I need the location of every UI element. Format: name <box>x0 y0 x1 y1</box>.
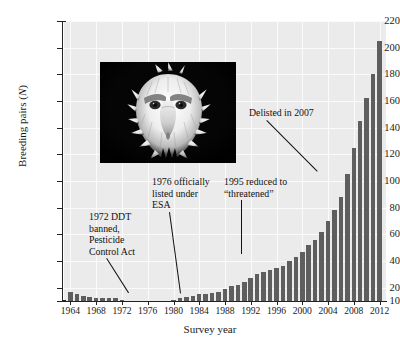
bar <box>300 252 305 301</box>
y-axis-top-cap <box>62 21 66 22</box>
annotation-delisted: Delisted in 2007 <box>249 107 314 119</box>
bar <box>248 278 253 301</box>
annotation-ddt: 1972 DDTbanned,PesticideControl Act <box>89 211 135 257</box>
bar <box>261 272 266 301</box>
bar <box>294 257 299 301</box>
bar <box>255 274 260 301</box>
bar <box>210 293 215 301</box>
y-axis-tick <box>57 234 62 235</box>
annotation-threatened: 1995 reduced to“threatened” <box>224 176 287 199</box>
bar <box>371 74 376 301</box>
y-axis-tick-label: 40 <box>348 256 400 267</box>
y-axis-tick-label: 140 <box>348 123 400 134</box>
bar <box>313 240 318 301</box>
bar <box>319 232 324 301</box>
gridline-vertical <box>96 21 97 301</box>
x-axis-title: Survey year <box>130 323 290 335</box>
y-axis-tick-label: 160 <box>348 96 400 107</box>
annotation-esa-line: listed under <box>152 188 210 200</box>
plot-area: 1972 DDTbanned,PesticideControl Act1976 … <box>64 21 386 301</box>
bar <box>203 294 208 301</box>
annotation-esa-line: 1976 officially <box>152 176 210 188</box>
annotation-ddt-line: banned, <box>89 223 135 235</box>
bar <box>332 210 337 301</box>
bar <box>223 289 228 301</box>
gridline-vertical <box>70 21 71 301</box>
y-axis-tick <box>57 74 62 75</box>
bar <box>306 245 311 301</box>
y-axis-tick <box>57 21 62 22</box>
y-axis-tick-label: 120 <box>348 149 400 160</box>
y-axis-tick-label: 80 <box>348 203 400 214</box>
y-axis-spine <box>62 21 63 301</box>
chart-figure: 1972 DDTbanned,PesticideControl Act1976 … <box>0 0 400 346</box>
annotation-ddt-line: 1972 DDT <box>89 211 135 223</box>
annotation-threatened-leader-line <box>241 200 242 254</box>
annotation-esa: 1976 officiallylisted underESA <box>152 176 210 211</box>
bald-eagle-photograph <box>100 62 236 163</box>
bar <box>339 197 344 301</box>
y-axis-title-text: Breeding pairs <box>16 103 28 167</box>
bar <box>287 261 292 301</box>
bar <box>352 148 357 301</box>
bar <box>326 221 331 301</box>
y-axis-tick-label: 20 <box>348 283 400 294</box>
y-axis-tick <box>57 101 62 102</box>
gridline-vertical <box>277 21 278 301</box>
y-axis-tick-label: 220 <box>348 16 400 27</box>
bar <box>242 282 247 301</box>
annotation-threatened-line: “threatened” <box>224 188 287 200</box>
bar <box>229 286 234 301</box>
annotation-threatened-line: 1995 reduced to <box>224 176 287 188</box>
annotation-ddt-line: Control Act <box>89 246 135 258</box>
y-axis-tick <box>57 154 62 155</box>
gridline-vertical <box>251 21 252 301</box>
bar <box>236 285 241 301</box>
y-axis-tick <box>57 208 62 209</box>
bar <box>68 292 73 301</box>
y-axis-tick <box>57 181 62 182</box>
y-axis-tick <box>57 261 62 262</box>
bar <box>197 294 202 301</box>
x-axis-tick-label: 2012 <box>360 306 400 316</box>
y-axis-tick-label: 200 <box>348 43 400 54</box>
bar <box>268 270 273 301</box>
y-axis-tick <box>57 301 62 302</box>
y-axis-tick <box>57 48 62 49</box>
bar <box>281 266 286 301</box>
y-axis-title-symbol: N <box>16 89 28 96</box>
y-axis-tick <box>57 128 62 129</box>
y-axis-title: Breeding pairs (N) <box>16 56 28 196</box>
y-axis-tick-label: 180 <box>348 69 400 80</box>
bar <box>274 268 279 301</box>
bar <box>75 294 80 301</box>
y-axis-tick-label: 100 <box>348 176 400 187</box>
annotation-esa-leader-line <box>169 212 181 293</box>
bar <box>216 292 221 301</box>
y-axis-tick-label: 60 <box>348 229 400 240</box>
annotation-esa-line: ESA <box>152 199 210 211</box>
annotation-ddt-line: Pesticide <box>89 234 135 246</box>
y-axis-tick <box>57 288 62 289</box>
annotation-delisted-line: Delisted in 2007 <box>249 107 314 119</box>
eagle-image-svg <box>100 62 236 163</box>
